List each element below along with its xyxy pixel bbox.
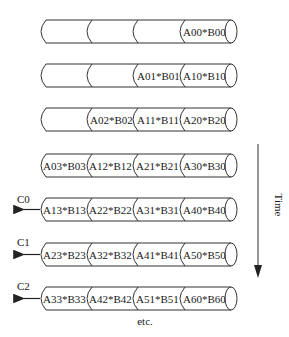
- output-label: C1: [17, 236, 30, 248]
- segment-1: A02*B02: [90, 114, 133, 126]
- output-label: C2: [17, 280, 30, 292]
- segment-3: A00*B00: [183, 26, 226, 38]
- segment-0: A33*B33: [43, 293, 86, 305]
- segment-1: A22*B22: [89, 204, 132, 216]
- segment-2: A21*B21: [136, 160, 179, 172]
- pipeline-row-0: A00*B00: [41, 20, 237, 43]
- arrow-down-icon: [254, 265, 262, 278]
- segment-1: A12*B12: [89, 160, 132, 172]
- segment-2: A41*B41: [136, 249, 179, 261]
- time-axis: Time: [254, 144, 285, 278]
- time-label: Time: [273, 194, 285, 217]
- segment-0: A03*B03: [43, 160, 86, 172]
- segment-1: A32*B32: [89, 249, 132, 261]
- pipeline-row-1: A01*B01 A10*B10: [41, 64, 237, 87]
- pipeline-row-4: A13*B13 A22*B22 A31*B31 A40*B40 C0: [17, 193, 237, 221]
- segment-2: A01*B01: [137, 70, 180, 82]
- segment-3: A30*B30: [183, 160, 226, 172]
- segment-0: A23*B23: [43, 249, 86, 261]
- pipeline-row-6: A33*B33 A42*B42 A51*B51 A60*B60 C2: [17, 280, 237, 310]
- segment-3: A50*B50: [183, 249, 226, 261]
- pipeline-row-2: A02*B02 A11*B11 A20*B20: [41, 108, 237, 131]
- output-label: C0: [17, 193, 30, 205]
- segment-1: A42*B42: [89, 293, 132, 305]
- segment-2: A11*B11: [137, 114, 179, 126]
- pipeline-row-3: A03*B03 A12*B12 A21*B21 A30*B30: [41, 154, 237, 177]
- segment-3: A60*B60: [183, 293, 226, 305]
- segment-3: A20*B20: [183, 114, 226, 126]
- segment-3: A40*B40: [183, 204, 226, 216]
- segment-2: A31*B31: [136, 204, 179, 216]
- etc-label: etc.: [137, 315, 153, 327]
- segment-2: A51*B51: [136, 293, 179, 305]
- segment-3: A10*B10: [183, 70, 226, 82]
- pipeline-row-5: A23*B23 A32*B32 A41*B41 A50*B50 C1: [17, 236, 237, 266]
- segment-0: A13*B13: [43, 204, 86, 216]
- pipeline-diagram: A00*B00 A01*B01 A10*B10 A02*B02 A11*B11 …: [0, 0, 289, 337]
